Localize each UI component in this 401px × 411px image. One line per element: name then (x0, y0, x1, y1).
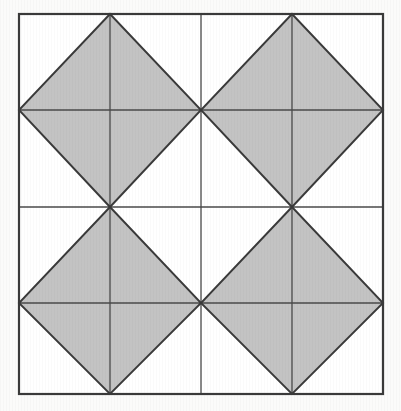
figure-root (0, 0, 401, 411)
geometric-figure (0, 0, 401, 411)
